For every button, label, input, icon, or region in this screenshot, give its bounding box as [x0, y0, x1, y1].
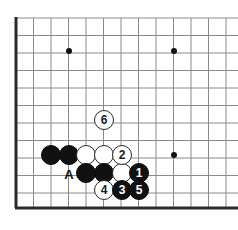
stone-white-2[interactable]: 2: [112, 145, 132, 165]
stone-white-6[interactable]: 6: [94, 110, 114, 130]
star-point-lower-right: [171, 152, 177, 158]
stone-move-number: 6: [101, 114, 108, 126]
stone-move-number: 4: [101, 184, 108, 196]
stone-white-4[interactable]: 4: [94, 180, 114, 200]
stone-black-5[interactable]: 5: [129, 180, 149, 200]
stone-move-number: 1: [136, 167, 143, 179]
star-point-upper-right: [171, 48, 177, 54]
stone-move-number: 3: [119, 184, 126, 196]
stone-move-number: 5: [136, 184, 143, 196]
stone-white[interactable]: [76, 145, 96, 165]
go-board-diagram: 621435 A: [0, 0, 238, 230]
stone-move-number: 2: [119, 149, 126, 161]
star-point-upper-left: [66, 48, 72, 54]
stone-white[interactable]: [94, 145, 114, 165]
stone-black[interactable]: [76, 163, 96, 183]
stone-black[interactable]: [41, 145, 61, 165]
